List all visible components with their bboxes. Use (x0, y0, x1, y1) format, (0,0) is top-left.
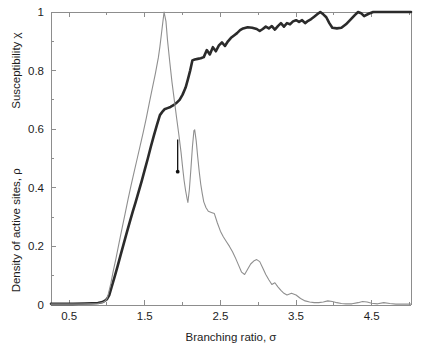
series-line-density (51, 12, 411, 304)
series-line-susceptibility (51, 12, 411, 304)
y-axis-ticks (51, 12, 56, 305)
critical-point-arrow-head (176, 170, 180, 174)
data-series-group (51, 12, 411, 304)
y-tick-label: 1 (38, 6, 44, 18)
x-tick-label: 0.5 (61, 310, 77, 322)
annotations-group (176, 139, 180, 173)
y-tick-label: 0 (38, 299, 44, 311)
figure-container: 0.51.52.53.54.5 00.20.40.60.81 Branching… (0, 0, 424, 347)
y-tick-label: 0.6 (28, 123, 44, 135)
y-axis-tick-labels: 00.20.40.60.81 (28, 6, 45, 311)
x-tick-label: 1.5 (137, 310, 153, 322)
y-tick-label: 0.2 (28, 240, 44, 252)
x-tick-label: 3.5 (288, 310, 304, 322)
y-tick-label: 0.4 (28, 182, 45, 194)
x-axis-title: Branching ratio, σ (186, 331, 277, 343)
y-tick-label: 0.8 (28, 65, 44, 77)
chart-canvas: 0.51.52.53.54.5 00.20.40.60.81 Branching… (0, 0, 424, 347)
y-axis-title-susceptibility: Susceptibility χ (10, 32, 22, 108)
plot-frame (51, 12, 411, 305)
x-axis-tick-labels: 0.51.52.53.54.5 (61, 310, 380, 322)
x-tick-label: 2.5 (212, 310, 228, 322)
x-tick-label: 4.5 (364, 310, 380, 322)
y-axis-title-density: Density of active sites, ρ (10, 168, 22, 293)
